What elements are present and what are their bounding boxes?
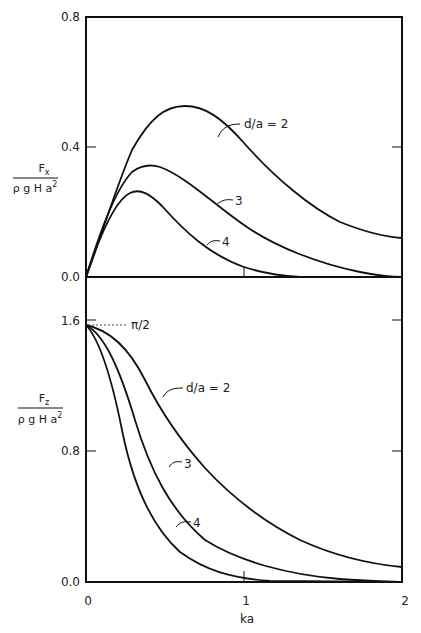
top-ylabel-denominator: ρ g H a2 bbox=[13, 180, 58, 195]
bottom-ylabel-numerator: Fz bbox=[39, 392, 50, 407]
xtick-label-0: 0 bbox=[84, 594, 92, 608]
pi-over-2-label: π/2 bbox=[131, 318, 150, 332]
top-leader-d-a-3 bbox=[216, 200, 233, 205]
top-ytick-label-0.8: 0.8 bbox=[61, 10, 80, 24]
figure: 0.8 0.4 0.0 Fx ρ g H a2 d/a = 2 3 4 1.6 … bbox=[0, 0, 421, 633]
top-ytick-label-0.0: 0.0 bbox=[61, 270, 80, 284]
bottom-label-d-a-4: 4 bbox=[193, 516, 201, 530]
top-curve-d-a-3 bbox=[86, 166, 402, 277]
top-label-d-a-4: 4 bbox=[222, 235, 230, 249]
top-curve-d-a-4 bbox=[86, 191, 402, 277]
bottom-leader-d-a-3 bbox=[169, 462, 182, 467]
top-ylabel-numerator: Fx bbox=[38, 162, 49, 177]
xtick-label-1: 1 bbox=[242, 594, 250, 608]
bottom-curve-d-a-2 bbox=[86, 325, 402, 567]
bottom-ytick-label-0.0: 0.0 bbox=[61, 575, 80, 589]
top-label-d-a-3: 3 bbox=[235, 194, 243, 208]
bottom-leader-d-a-2 bbox=[163, 388, 183, 397]
top-leader-d-a-4 bbox=[207, 241, 220, 245]
top-ytick-label-0.4: 0.4 bbox=[61, 140, 80, 154]
x-axis-label: ka bbox=[240, 612, 254, 626]
bottom-ylabel: Fz ρ g H a2 bbox=[18, 392, 63, 426]
top-label-d-a-2: d/a = 2 bbox=[244, 117, 288, 131]
bottom-curve-d-a-4 bbox=[86, 325, 402, 582]
bottom-label-d-a-3: 3 bbox=[184, 457, 192, 471]
top-panel: 0.8 0.4 0.0 Fx ρ g H a2 d/a = 2 3 4 bbox=[13, 10, 402, 284]
bottom-label-d-a-2: d/a = 2 bbox=[186, 381, 230, 395]
bottom-ylabel-denominator: ρ g H a2 bbox=[18, 411, 63, 426]
bottom-ytick-label-1.6: 1.6 bbox=[61, 314, 80, 328]
top-ylabel: Fx ρ g H a2 bbox=[13, 162, 58, 195]
bottom-curve-d-a-3 bbox=[86, 325, 402, 582]
bottom-panel: 1.6 0.8 0.0 0 1 2 ka π/2 Fz ρ g H a2 d/a… bbox=[18, 277, 409, 626]
bottom-ytick-label-0.8: 0.8 bbox=[61, 444, 80, 458]
xtick-label-2: 2 bbox=[401, 594, 409, 608]
